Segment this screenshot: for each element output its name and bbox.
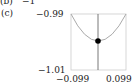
plot — [0, 0, 138, 84]
minimum-point — [95, 38, 101, 44]
parabola-curve — [71, 14, 126, 41]
